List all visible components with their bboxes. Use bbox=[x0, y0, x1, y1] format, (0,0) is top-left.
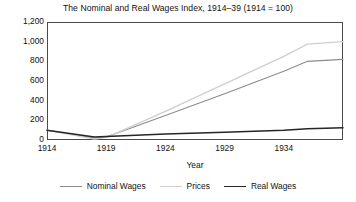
x-tick-1924: 1924 bbox=[145, 143, 185, 153]
legend-item-nominal-wages[interactable]: Nominal Wages bbox=[60, 181, 146, 191]
legend-item-label: Nominal Wages bbox=[87, 181, 146, 191]
series-line-real-wages bbox=[47, 128, 343, 137]
y-tick-400: 400 bbox=[2, 95, 44, 105]
legend-swatch-icon bbox=[224, 186, 246, 187]
legend-item-prices[interactable]: Prices bbox=[160, 181, 210, 191]
x-axis-label: Year bbox=[47, 160, 343, 170]
series-line-prices bbox=[47, 42, 343, 139]
series-lines-layer bbox=[47, 22, 343, 140]
legend-item-label: Real Wages bbox=[251, 181, 296, 191]
chart-title: The Nominal and Real Wages Index, 1914–3… bbox=[0, 3, 356, 13]
series-line-nominal-wages bbox=[47, 59, 343, 138]
x-tick-1914: 1914 bbox=[27, 143, 67, 153]
y-tick-1200: 1,200 bbox=[2, 16, 44, 26]
chart-legend: Nominal WagesPricesReal Wages bbox=[0, 181, 356, 191]
legend-item-real-wages[interactable]: Real Wages bbox=[224, 181, 296, 191]
x-tick-1934: 1934 bbox=[264, 143, 304, 153]
x-tick-1919: 1919 bbox=[86, 143, 126, 153]
legend-swatch-icon bbox=[160, 186, 182, 187]
legend-swatch-icon bbox=[60, 186, 82, 187]
legend-item-label: Prices bbox=[187, 181, 210, 191]
x-tick-1929: 1929 bbox=[205, 143, 245, 153]
y-tick-800: 800 bbox=[2, 55, 44, 65]
chart-figure: The Nominal and Real Wages Index, 1914–3… bbox=[0, 0, 356, 202]
y-tick-600: 600 bbox=[2, 75, 44, 85]
y-tick-200: 200 bbox=[2, 114, 44, 124]
y-tick-1000: 1,000 bbox=[2, 36, 44, 46]
